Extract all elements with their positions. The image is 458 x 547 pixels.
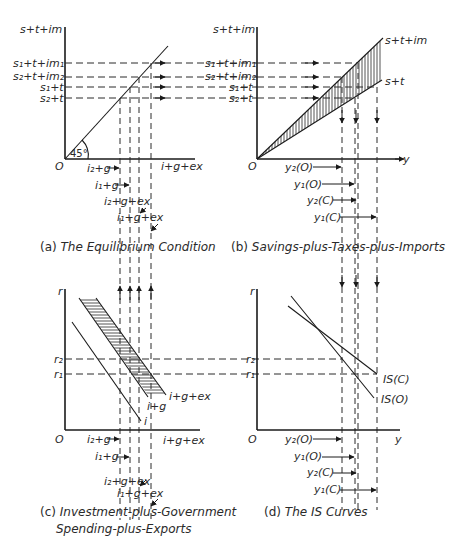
curve-s-t [257,80,382,159]
tick-y2-C: y₂(C) [306,194,334,207]
c-tick-i1-g-ex: i₁+g+ex [117,487,164,500]
curve-s-t-im [257,38,383,159]
panel-c-caption: (c) Investment-plus-Government [40,505,238,519]
panel-a-origin: O [55,160,64,173]
panel-b-y-label: s+t+im [213,23,255,36]
d-tick-y1-O: y₁(O) [293,450,322,463]
curve-IS-C [288,306,377,374]
tick-y1-C: y₁(C) [313,211,341,224]
tick-s2-t: s₂+t [40,92,64,105]
panel-d-x-label: y [394,433,402,446]
panel-d-y-label: r [250,285,256,298]
label-s-t: s+t [385,75,405,88]
tick-y2-O: y₂(O) [284,161,313,174]
panel-b-origin: O [248,160,257,173]
angle-label: 45° [70,148,88,159]
tick-r1: r₁ [54,368,63,381]
label-s-t-im: s+t+im [385,34,427,47]
tick-s1-t-im1: s₁+t+im₁ [13,57,64,70]
panel-d-caption: (d) The IS Curves [264,505,368,519]
panel-d-origin: O [248,433,257,446]
panel-b-hatch [260,30,380,160]
panel-a: s+t+im i+g+ex O 45° s₁+t+im₁ s₂+t+im₂ s₁… [13,23,257,520]
panel-c-y-label: r [58,285,64,298]
panel-b-x-label: y [402,153,410,166]
tick-i1-g-ex: i₁+g+ex [117,211,164,224]
panel-b: s+t+im y O s+t+im s+t s₁+t+im₁ s₂+t+im₂ … [205,23,445,510]
label-i-g-ex: i+g+ex [169,390,211,403]
panel-c: r i+g+ex O i+g+ex i+g i r₂ r₁ i₂+g i₁+g … [40,285,377,536]
b-tick-s2-t: s₂+t [229,92,253,105]
curve-IS-O [291,296,374,398]
tick-y1-O: y₁(O) [293,178,322,191]
d-tick-y1-C: y₁(C) [313,483,341,496]
d-tick-y2-O: y₂(O) [284,433,313,446]
d-tick-r1: r₁ [246,368,255,381]
label-i: i [144,415,147,428]
label-i-g: i+g [147,400,166,413]
d-tick-y2-C: y₂(C) [306,466,334,479]
d-tick-r2: r₂ [246,353,256,366]
panel-c-x-label: i+g+ex [163,434,205,447]
b-tick-s1-t-im1: s₁+t+im₁ [205,57,256,70]
panel-c-origin: O [55,433,64,446]
panel-a-x-label: i+g+ex [161,160,203,173]
panel-a-caption: (a) The Equilibrium Condition [40,240,216,254]
panel-c-caption-line2: Spending-plus-Exports [56,522,191,536]
tick-r2: r₂ [54,353,64,366]
panel-b-caption: (b) Savings-plus-Taxes-plus-Imports [231,240,445,254]
label-IS-O: IS(O) [381,393,408,406]
c-tick-i1-g: i₁+g [95,450,119,463]
four-panel-is-diagram: s+t+im i+g+ex O 45° s₁+t+im₁ s₂+t+im₂ s₁… [0,0,458,547]
panel-a-y-label: s+t+im [20,23,62,36]
curve-i-g-ex [96,298,166,395]
label-IS-C: IS(C) [383,373,410,386]
tick-i2-g-ex: i₂+g+ex [104,195,151,208]
panel-d: r y O IS(C) IS(O) r₂ r₁ y₂(O) y₁(O) y₂(C… [246,275,410,519]
